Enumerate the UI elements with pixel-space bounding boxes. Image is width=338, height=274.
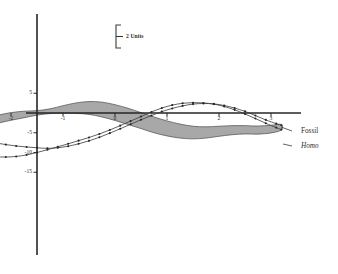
data-point-marker [88,136,90,138]
x-tick-label: 2 [215,116,223,122]
data-point-marker [223,105,225,107]
y-tick-label: -15 [16,169,32,175]
data-point-marker [171,104,173,106]
y-tick-label: -5 [16,130,32,136]
data-point-marker [98,136,100,138]
data-point-marker [280,124,282,126]
data-point-marker [57,146,59,148]
data-point-marker [119,128,121,130]
data-point-marker [182,105,184,107]
data-point-marker [5,144,7,146]
data-point-marker [46,149,48,151]
data-point-marker [234,109,236,111]
scale-bar-label: 2 Units [126,33,144,39]
data-point-marker [119,125,121,127]
data-point-marker [36,151,38,153]
x-tick-label: 1 [163,116,171,122]
data-point-marker [254,117,256,119]
data-point-marker [171,107,173,109]
x-tick-label: 0 [111,116,119,122]
data-point-marker [98,133,100,135]
data-point-marker [67,145,69,147]
y-tick-label: 5 [16,90,32,96]
data-point-marker [140,119,142,121]
data-point-marker [36,147,38,149]
data-point-marker [140,116,142,118]
data-point-marker [161,111,163,113]
data-point-marker [78,143,80,145]
y-tick-label: -10 [16,150,32,156]
data-point-marker [15,145,17,147]
data-point-marker [130,120,132,122]
data-point-marker [150,111,152,113]
data-point-marker [109,129,111,131]
x-tick-label: -2 [7,116,15,122]
data-point-marker [244,110,246,112]
data-point-marker [161,107,163,109]
data-point-marker [213,103,215,105]
x-tick-label: -1 [59,116,67,122]
data-point-marker [254,115,256,117]
data-point-marker [26,146,28,148]
data-point-marker [78,140,80,142]
chart-canvas [0,0,338,274]
data-point-marker [150,115,152,117]
data-point-marker [182,102,184,104]
legend-label-fossil: Fossil [301,128,318,135]
data-point-marker [67,143,69,145]
data-point-marker [275,123,277,125]
data-point-marker [280,129,282,131]
homo-leader-line [283,144,292,146]
data-point-marker [244,113,246,115]
data-point-marker [275,127,277,129]
fossil-leader-line [281,127,292,131]
data-point-marker [202,102,204,104]
legend-label-homo: Homo [301,143,319,150]
chart-figure: 2 Units Fossil Homo -3-2-10123 5-5-10-15 [0,0,338,274]
data-point-marker [88,140,90,142]
data-point-marker [5,156,7,158]
data-point-marker [15,155,17,157]
data-point-marker [265,122,267,124]
data-point-marker [109,132,111,134]
x-tick-label: 3 [267,116,275,122]
data-point-marker [192,102,194,104]
data-point-marker [130,123,132,125]
